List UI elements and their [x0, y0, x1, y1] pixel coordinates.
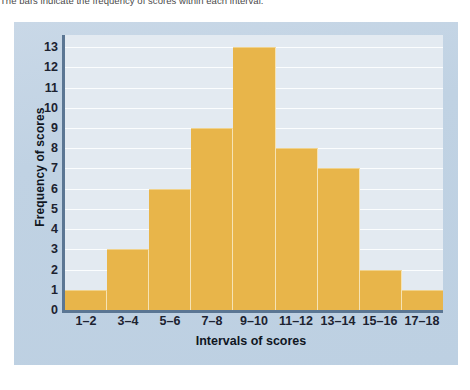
x-axis-tick: 9–10: [233, 314, 275, 328]
y-axis-tick: 7: [51, 162, 58, 175]
y-axis-tick: 1: [51, 284, 58, 297]
bar: [360, 270, 402, 310]
bar: [318, 168, 360, 310]
x-axis-tick: 11–12: [275, 314, 317, 328]
y-axis-tick: 8: [51, 142, 58, 155]
plot-area: [62, 35, 443, 313]
figure-caption-text: The bars indicate the frequency of score…: [0, 0, 263, 6]
x-axis-tick: 1–2: [65, 314, 107, 328]
x-axis-tick: 17–18: [401, 314, 443, 328]
x-axis-tick: 15–16: [359, 314, 401, 328]
plot-inner: [65, 35, 443, 310]
y-axis-tick: 10: [44, 102, 58, 115]
chart-panel: Frequency of scores 012345678910111213 1…: [14, 22, 458, 365]
bar-series: [65, 35, 443, 310]
x-axis-tick: 7–8: [191, 314, 233, 328]
y-axis-tick: 11: [45, 81, 58, 94]
y-axis-tick: 3: [51, 243, 58, 256]
y-axis-tick: 12: [44, 61, 58, 74]
y-axis-tick: 6: [51, 182, 58, 195]
bar: [65, 290, 107, 310]
y-axis-tick-labels: 012345678910111213: [28, 35, 58, 310]
bar: [402, 290, 443, 310]
x-axis-title: Intervals of scores: [62, 334, 440, 348]
x-axis-tick: 13–14: [317, 314, 359, 328]
figure-caption: The bars indicate the frequency of score…: [0, 0, 470, 9]
y-axis-tick: 0: [51, 304, 58, 317]
y-axis-tick: 9: [51, 122, 58, 135]
bar: [107, 249, 149, 310]
y-axis-tick: 4: [51, 223, 58, 236]
x-axis-tick: 3–4: [107, 314, 149, 328]
y-axis-tick: 5: [51, 203, 58, 216]
bar: [233, 47, 275, 310]
bar: [191, 128, 233, 310]
bar: [149, 189, 191, 310]
y-axis-tick: 13: [44, 41, 58, 54]
x-axis-tick-labels: 1–23–45–67–89–1011–1213–1415–1617–18: [65, 314, 443, 328]
y-axis-tick: 2: [51, 263, 58, 276]
x-axis-tick: 5–6: [149, 314, 191, 328]
bar: [276, 148, 318, 310]
